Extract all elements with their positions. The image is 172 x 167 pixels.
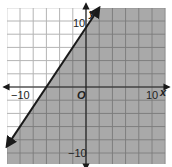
x-axis-label: x <box>159 86 167 98</box>
x-tick-label-10: 10 <box>146 89 158 101</box>
coordinate-plane: y x O −10 10 10 −10 <box>0 0 172 167</box>
y-tick-label-10: 10 <box>73 17 85 29</box>
y-axis-label: y <box>88 7 96 19</box>
origin-label: O <box>77 89 86 101</box>
y-tick-label-neg10: −10 <box>68 147 87 159</box>
x-tick-label-neg10: −10 <box>11 89 30 101</box>
